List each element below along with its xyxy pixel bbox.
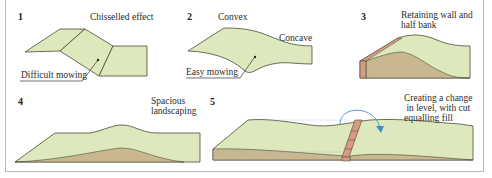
panel-2-concave-label: Concave [279, 33, 312, 43]
panel-1-landform [25, 29, 147, 76]
panel-2-convex-label: Convex [218, 12, 248, 22]
panel-2-number: 2 [187, 11, 192, 22]
retaining-wall [360, 61, 366, 78]
panel-5-number: 5 [210, 96, 215, 107]
panel-1-pointer-dot [97, 59, 99, 61]
panel-3-landform [360, 35, 470, 78]
panel-5-title: Creating a change in level, with cut equ… [404, 93, 473, 123]
panel-4-number: 4 [18, 96, 23, 107]
panel-3-title: Retaining wall and half bank [401, 10, 473, 30]
panel-1-title: Chisselled effect [90, 12, 153, 22]
panel-1-pointer-label: Difficult mowing [21, 70, 87, 80]
panel-3-number: 3 [361, 11, 366, 22]
panel-2-pointer-label: Easy mowing [186, 67, 238, 77]
panel-2-pointer-dot [254, 56, 256, 58]
panel-1-number: 1 [18, 11, 23, 22]
panel-4-landform [15, 125, 200, 162]
panel-4-title: Spacious landscaping [151, 96, 196, 116]
